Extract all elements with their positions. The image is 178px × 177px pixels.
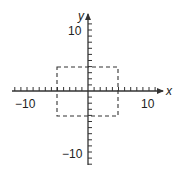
y-tick-label-neg10: −10	[62, 147, 83, 161]
y-axis-label: y	[77, 9, 85, 23]
x-axis-label: x	[165, 84, 173, 98]
x-tick-label-10: 10	[141, 97, 155, 111]
y-tick-label-10: 10	[68, 24, 82, 38]
coordinate-plane: y x 10 −10 −10 10	[0, 0, 178, 177]
x-tick-label-neg10: −10	[15, 97, 36, 111]
